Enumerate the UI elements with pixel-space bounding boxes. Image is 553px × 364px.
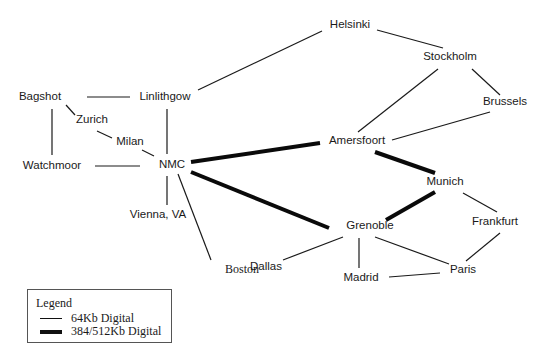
link-milan-nmc <box>142 150 154 156</box>
link-brussels-amersfoort <box>392 112 490 140</box>
link-zurich-milan <box>97 131 112 138</box>
link-munich-frankfurt <box>463 193 497 212</box>
link-grenoble-paris <box>375 237 449 264</box>
node-amersfoort: Amersfoort <box>329 135 385 147</box>
link-amersfoort-munich <box>375 152 435 173</box>
link-helsinki-linlithgow <box>198 31 322 90</box>
node-nmc: NMC <box>159 159 185 171</box>
thick-line-swatch-icon <box>40 330 62 334</box>
link-stockholm-amersfoort <box>358 69 438 132</box>
legend-item-384-512kb: 384/512Kb Digital <box>40 324 161 339</box>
legend-label-384-512kb: 384/512Kb Digital <box>71 324 161 339</box>
node-zurich: Zurich <box>76 114 108 126</box>
thin-line-swatch-icon <box>40 318 62 319</box>
link-nmc-amersfoort <box>191 143 320 162</box>
node-bagshot: Bagshot <box>19 91 61 103</box>
node-linlithgow: Linlithgow <box>139 91 190 103</box>
node-munich: Munich <box>426 176 463 188</box>
node-paris: Paris <box>450 264 476 276</box>
node-milan: Milan <box>116 136 143 148</box>
network-diagram: HelsinkiStockholmBrusselsAmersfoortBagsh… <box>0 0 553 364</box>
link-munich-grenoble <box>386 192 435 220</box>
link-bagshot-zurich <box>66 105 75 115</box>
node-dallas: Dallas <box>250 261 282 273</box>
link-stockholm-brussels <box>472 69 500 95</box>
node-frankfurt: Frankfurt <box>472 216 518 228</box>
node-watchmoor: Watchmoor <box>23 160 81 172</box>
legend: Legend 64Kb Digital 384/512Kb Digital <box>27 289 172 343</box>
node-brussels: Brussels <box>483 96 527 108</box>
link-grenoble-dallas <box>283 237 343 260</box>
node-vienna: Vienna, VA <box>130 209 186 221</box>
node-grenoble: Grenoble <box>346 220 393 232</box>
link-helsinki-stockholm <box>377 30 443 48</box>
link-nmc-grenoble <box>191 172 329 228</box>
link-frankfurt-paris <box>466 233 500 261</box>
node-stockholm: Stockholm <box>423 51 477 63</box>
node-madrid: Madrid <box>343 272 378 284</box>
node-helsinki: Helsinki <box>330 19 370 31</box>
legend-title: Legend <box>36 296 72 311</box>
link-madrid-paris <box>389 273 440 277</box>
